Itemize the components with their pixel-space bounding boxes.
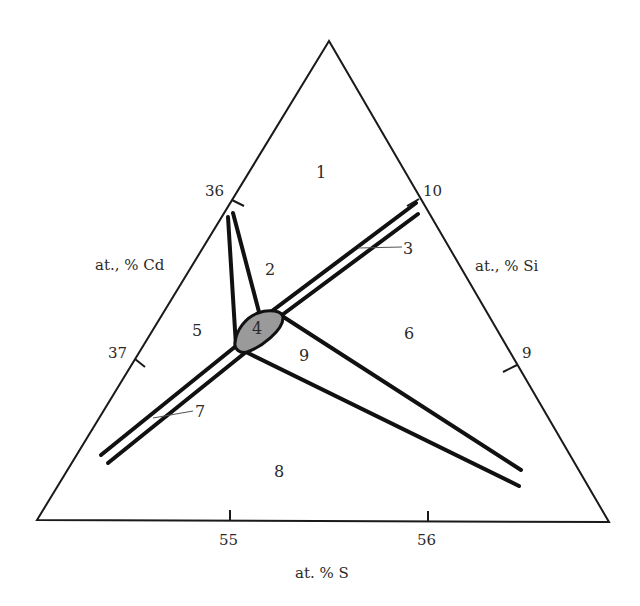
region-label-3: 3 [403,239,413,258]
phase-boundary-9-lower [246,352,519,486]
region-label-2: 2 [265,260,275,279]
region-label-7: 7 [195,402,205,421]
phase-boundary-9-upper [282,316,521,470]
phase-boundary-2-right [233,213,259,312]
region-label-4: 4 [252,319,262,338]
tick-label-si-10: 10 [423,182,442,200]
tick-label-s-55: 55 [219,531,238,549]
tick-left-37 [135,359,145,367]
region-label-6: 6 [404,324,414,343]
tick-label-cd-36: 36 [205,182,224,200]
axis-title-s: at. % S [295,564,349,582]
region-label-1: 1 [316,163,326,182]
tick-label-si-9: 9 [522,344,532,362]
region-label-5: 5 [192,321,202,340]
phase-boundary-3-lower [278,214,418,318]
tick-left-36 [232,200,244,206]
phase-boundary-7-upper [101,346,236,455]
axis-title-cd: at., % Cd [95,256,165,274]
phase-boundary-2-left [228,217,236,346]
leader-line-3 [358,247,402,248]
axis-title-si: at., % Si [475,257,539,275]
region-label-9: 9 [299,346,309,365]
tick-label-s-56: 56 [417,531,436,549]
tick-label-cd-37: 37 [108,344,127,362]
ternary-diagram: 36 37 10 9 55 56 at., % Cd at., % Si at.… [0,0,640,606]
tick-right-9 [503,365,517,372]
region-label-8: 8 [274,462,284,481]
